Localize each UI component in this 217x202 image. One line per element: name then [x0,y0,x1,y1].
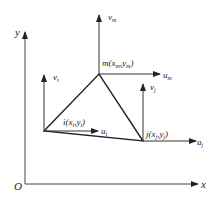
node-i-label: i(xi,yi) [63,117,85,128]
v-m-label: vm [108,12,117,23]
x-axis-label: x [200,178,206,190]
u-j-label: uj [197,137,204,148]
node-m: vm um m(xm,ym) [99,12,173,81]
v-i-label: vi [53,72,59,83]
y-axis-label: y [14,26,20,38]
global-axes: O x y [14,26,206,192]
origin-label: O [14,180,22,192]
triangle-element-diagram: O x y vm um m(xm,ym) vi ui i(xi,yi) vj u… [0,0,217,202]
node-m-label: m(xm,ym) [102,58,133,69]
u-m-label: um [163,70,173,81]
node-j: vj uj j(xj,yj) [143,82,204,148]
u-i-label: ui [101,126,108,137]
node-i: vi ui i(xi,yi) [44,72,108,137]
node-j-label: j(xj,yj) [145,129,168,140]
v-j-label: vj [150,82,156,93]
